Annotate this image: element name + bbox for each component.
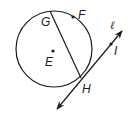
label-e: E bbox=[45, 55, 54, 69]
label-i: I bbox=[114, 44, 118, 58]
circle-e bbox=[16, 11, 92, 87]
chord-gh bbox=[50, 11, 81, 78]
label-f: F bbox=[78, 8, 86, 22]
label-g: G bbox=[41, 15, 50, 29]
point-e-dot bbox=[51, 49, 54, 52]
point-f-dot bbox=[71, 15, 74, 18]
point-i-dot bbox=[109, 42, 112, 45]
tangent-line-l bbox=[57, 31, 122, 109]
label-l: ℓ bbox=[110, 19, 115, 32]
geometry-diagram: G F E H I ℓ bbox=[0, 0, 132, 120]
label-h: H bbox=[82, 82, 91, 96]
